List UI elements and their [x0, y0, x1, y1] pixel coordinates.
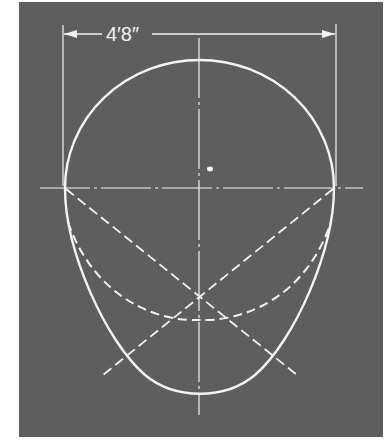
diagonal-right-to-left: [103, 189, 333, 375]
egg-shape-diagram: 4′8″: [0, 0, 387, 442]
diagonal-left-to-right: [66, 189, 297, 375]
dimension-label: 4′8″: [106, 23, 139, 45]
left-arrow-icon: [64, 30, 77, 38]
center-dot: [207, 167, 213, 172]
right-arrow-icon: [322, 30, 335, 38]
